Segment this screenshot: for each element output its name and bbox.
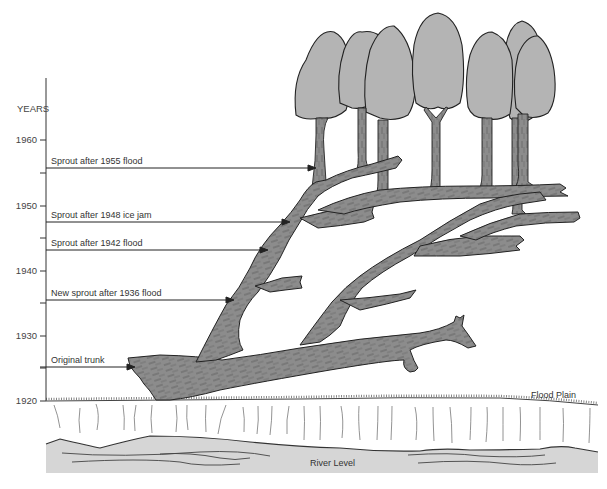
canopy-5 bbox=[466, 32, 512, 119]
year-label-1940: 1940 bbox=[3, 266, 37, 276]
annotation-sprout-1942: Sprout after 1942 flood bbox=[51, 238, 143, 248]
original-trunk bbox=[128, 315, 476, 400]
years-axis bbox=[40, 78, 46, 401]
annotation-sprout-1955: Sprout after 1955 flood bbox=[51, 156, 143, 166]
stem-2 bbox=[356, 108, 372, 172]
year-label-1920: 1920 bbox=[3, 396, 37, 406]
stem-4 bbox=[424, 107, 448, 194]
year-label-1960: 1960 bbox=[3, 135, 37, 145]
root-lines bbox=[54, 404, 590, 443]
annotation-original-trunk: Original trunk bbox=[51, 355, 105, 365]
sprout-growth-diagram: YEARS 1960 1950 1940 1930 1920 Sprout af… bbox=[0, 0, 607, 489]
flood-plain-surface bbox=[46, 396, 598, 405]
year-label-1950: 1950 bbox=[3, 201, 37, 211]
year-label-1930: 1930 bbox=[3, 331, 37, 341]
sprout-1936 bbox=[196, 156, 402, 362]
annotation-sprout-1948: Sprout after 1948 ice jam bbox=[51, 210, 152, 220]
annotation-sprout-1936: New sprout after 1936 flood bbox=[51, 288, 162, 298]
stem-1 bbox=[312, 118, 328, 188]
tree-canopies bbox=[295, 13, 555, 122]
axis-title: YEARS bbox=[17, 104, 49, 114]
river-level-label: River Level bbox=[310, 458, 355, 468]
stem-7 bbox=[516, 114, 534, 186]
stem-5 bbox=[476, 118, 496, 194]
flood-plain-label: Flood Plain bbox=[531, 390, 576, 400]
trunk-and-branches bbox=[128, 156, 580, 400]
canopy-4 bbox=[412, 13, 463, 109]
